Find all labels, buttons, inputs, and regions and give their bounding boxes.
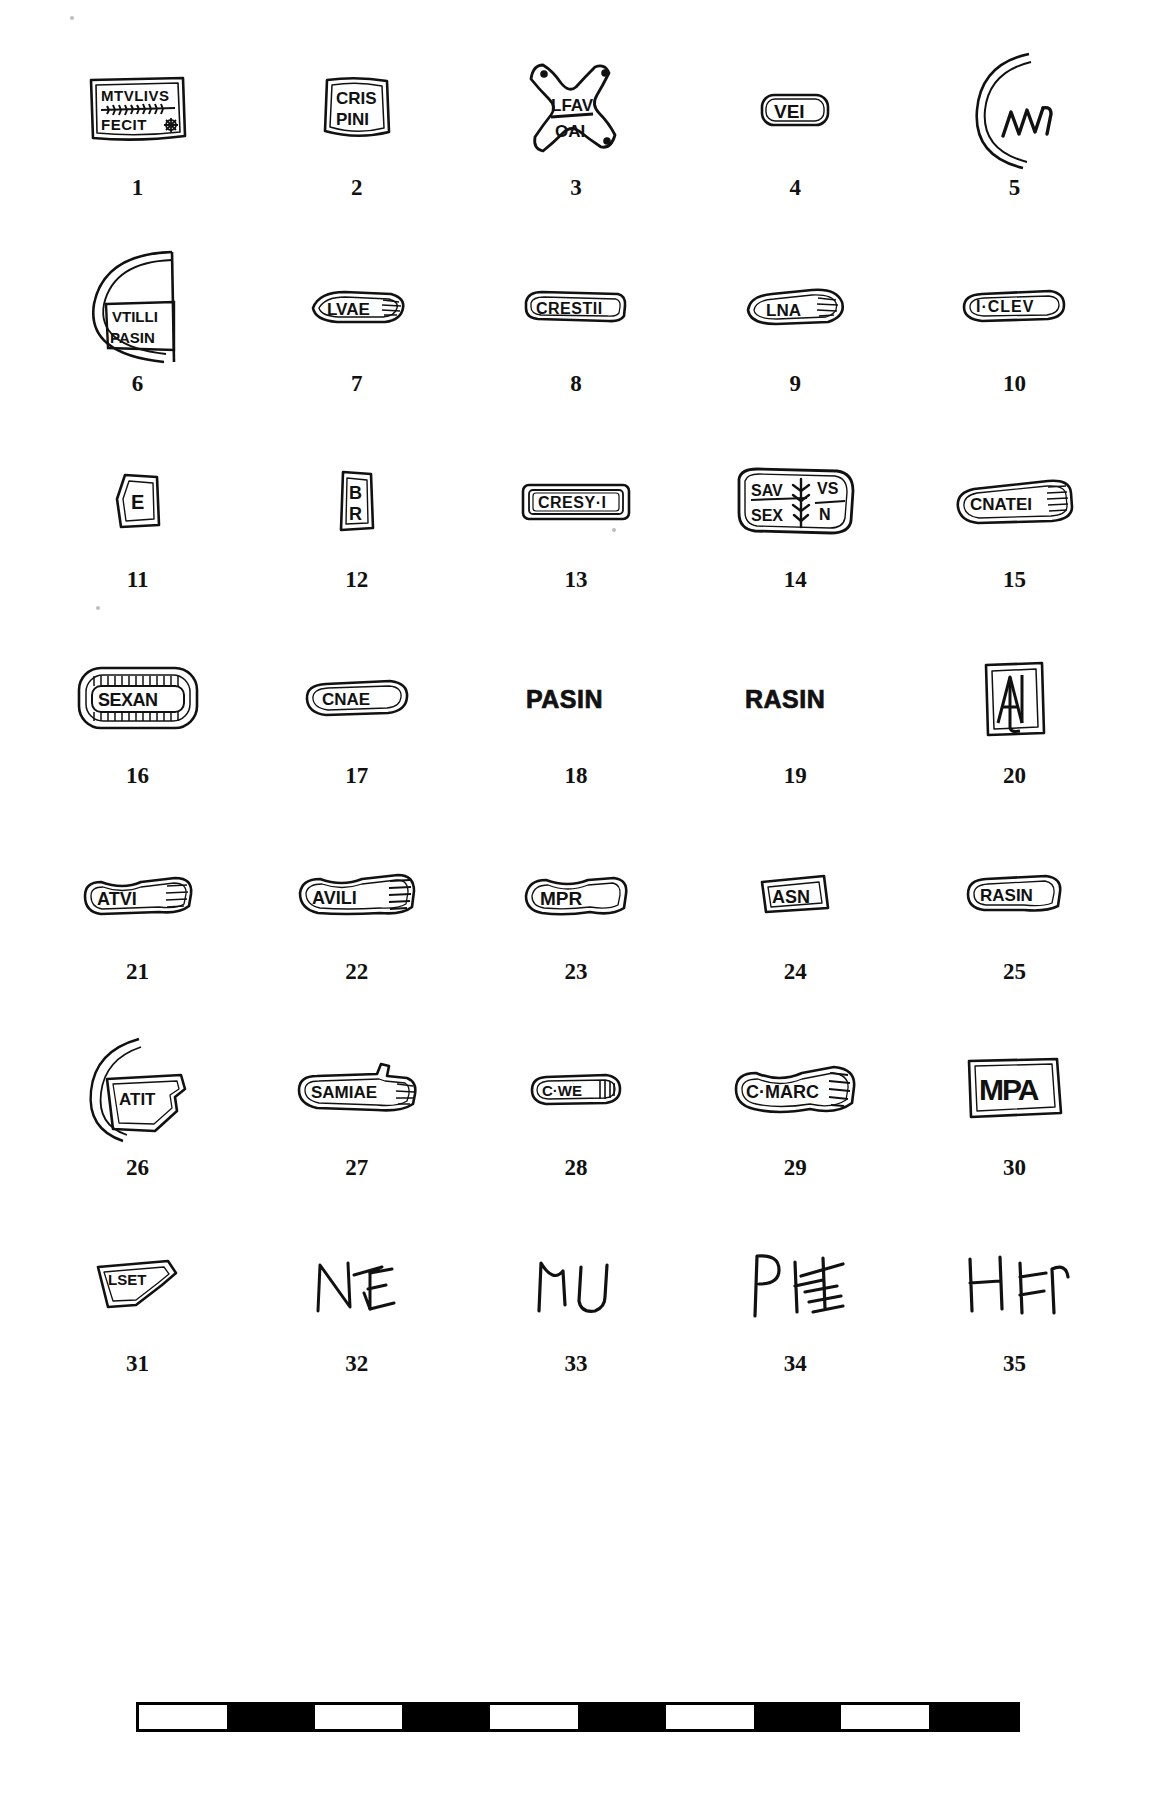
stamp-cell-16[interactable]: SEXAN 16 <box>28 634 247 830</box>
svg-text:SEX: SEX <box>751 507 783 524</box>
stamp-drawing-26: ATIT <box>28 1026 247 1154</box>
stamp-cell-8[interactable]: CRESTII 8 <box>466 242 685 438</box>
stamp-number: 8 <box>570 372 582 395</box>
stamp-cell-3[interactable]: LFAV OAI 3 <box>466 46 685 242</box>
scale-segment <box>754 1705 842 1729</box>
stamp-drawing-34 <box>686 1222 905 1350</box>
stamp-number: 12 <box>345 568 368 591</box>
stamp-drawing-6: VTILLI PASIN <box>28 242 247 370</box>
stamp-cell-19[interactable]: RASIN 19 <box>686 634 905 830</box>
stamp-plate: MTVLIVS FECIT 1 <box>0 0 1152 1795</box>
scale-segment <box>227 1705 315 1729</box>
stamp-cell-17[interactable]: CNAE 17 <box>247 634 466 830</box>
stamp-cell-29[interactable]: C·MARC 29 <box>686 1026 905 1222</box>
svg-text:C·MARC: C·MARC <box>746 1082 819 1102</box>
svg-text:FECIT: FECIT <box>101 116 147 133</box>
svg-text:MPA: MPA <box>979 1073 1039 1106</box>
stamp-cell-5[interactable]: 5 <box>905 46 1124 242</box>
svg-text:PINI: PINI <box>336 110 369 129</box>
svg-text:OAI: OAI <box>555 122 585 141</box>
stamp-number: 16 <box>126 764 149 787</box>
svg-text:ATVI: ATVI <box>97 889 137 909</box>
stamp-cell-4[interactable]: VEI 4 <box>686 46 905 242</box>
scale-segment <box>490 1705 578 1729</box>
stamp-cell-26[interactable]: ATIT 26 <box>28 1026 247 1222</box>
svg-text:CRESTII: CRESTII <box>536 300 603 317</box>
stamp-drawing-25: RASIN <box>905 830 1124 958</box>
stamp-cell-21[interactable]: ATVI 21 <box>28 830 247 1026</box>
stamp-number: 17 <box>345 764 368 787</box>
svg-text:C·WE: C·WE <box>542 1082 582 1099</box>
stamp-cell-12[interactable]: B R 12 <box>247 438 466 634</box>
stamp-drawing-5 <box>905 46 1124 174</box>
stamp-drawing-35 <box>905 1222 1124 1350</box>
stamp-drawing-23: MPR <box>466 830 685 958</box>
scale-segment <box>315 1705 403 1729</box>
stamp-number: 27 <box>345 1156 368 1179</box>
stamp-cell-33[interactable]: 33 <box>466 1222 685 1418</box>
scale-segment <box>402 1705 490 1729</box>
svg-text:SEXAN: SEXAN <box>98 690 158 710</box>
stamp-cell-18[interactable]: PASIN 18 <box>466 634 685 830</box>
stamp-drawing-13: CRESY·I <box>466 438 685 566</box>
stamp-drawing-31: LSET <box>28 1222 247 1350</box>
stamp-cell-32[interactable]: 32 <box>247 1222 466 1418</box>
stamp-cell-24[interactable]: ASN 24 <box>686 830 905 1026</box>
stamp-drawing-33 <box>466 1222 685 1350</box>
stamp-cell-31[interactable]: LSET 31 <box>28 1222 247 1418</box>
stamp-cell-22[interactable]: AVILI 22 <box>247 830 466 1026</box>
stamp-cell-7[interactable]: LVAE 7 <box>247 242 466 438</box>
stamp-number: 31 <box>126 1352 149 1375</box>
stamp-cell-1[interactable]: MTVLIVS FECIT 1 <box>28 46 247 242</box>
stamp-cell-2[interactable]: CRIS PINI 2 <box>247 46 466 242</box>
stamp-drawing-10: I·CLEV <box>905 242 1124 370</box>
stamp-cell-13[interactable]: CRESY·I 13 <box>466 438 685 634</box>
stamp-number: 28 <box>564 1156 587 1179</box>
stamp-cell-15[interactable]: CNATEI 15 <box>905 438 1124 634</box>
svg-text:R: R <box>349 504 362 524</box>
stamp-cell-14[interactable]: SAV VS SEX N 14 <box>686 438 905 634</box>
scale-segment <box>139 1705 227 1729</box>
scale-segment <box>666 1705 754 1729</box>
stamp-cell-9[interactable]: LNA 9 <box>686 242 905 438</box>
svg-text:MTVLIVS: MTVLIVS <box>101 87 170 104</box>
svg-text:MPR: MPR <box>540 888 583 909</box>
stamp-drawing-2: CRIS PINI <box>247 46 466 174</box>
stamp-number: 13 <box>564 568 587 591</box>
stamp-drawing-21: ATVI <box>28 830 247 958</box>
scale-segment <box>929 1705 1017 1729</box>
stamp-cell-25[interactable]: RASIN 25 <box>905 830 1124 1026</box>
stamp-number: 20 <box>1003 764 1026 787</box>
svg-text:VTILLI: VTILLI <box>112 308 158 325</box>
stamp-cell-10[interactable]: I·CLEV 10 <box>905 242 1124 438</box>
stamp-number: 34 <box>784 1352 807 1375</box>
stamp-cell-6[interactable]: VTILLI PASIN 6 <box>28 242 247 438</box>
scale-bar <box>136 1702 1020 1732</box>
svg-text:N: N <box>819 506 831 523</box>
svg-text:VS: VS <box>817 480 839 497</box>
stamp-cell-28[interactable]: C·WE 28 <box>466 1026 685 1222</box>
stamp-drawing-9: LNA <box>686 242 905 370</box>
stamp-number: 4 <box>789 176 801 199</box>
svg-text:CRESY·I: CRESY·I <box>538 494 606 511</box>
stamp-drawing-7: LVAE <box>247 242 466 370</box>
stamp-cell-35[interactable]: 35 <box>905 1222 1124 1418</box>
stamp-number: 19 <box>784 764 807 787</box>
stamp-cell-23[interactable]: MPR 23 <box>466 830 685 1026</box>
stamp-number: 25 <box>1003 960 1026 983</box>
stamp-number: 29 <box>784 1156 807 1179</box>
stamp-number: 15 <box>1003 568 1026 591</box>
svg-text:CNAE: CNAE <box>322 690 370 709</box>
stamp-cell-11[interactable]: E 11 <box>28 438 247 634</box>
stamp-cell-30[interactable]: MPA 30 <box>905 1026 1124 1222</box>
svg-text:LSET: LSET <box>108 1271 146 1288</box>
stamp-cell-27[interactable]: SAMIAE 27 <box>247 1026 466 1222</box>
stamp-drawing-22: AVILI <box>247 830 466 958</box>
stamp-number: 23 <box>564 960 587 983</box>
svg-text:I·CLEV: I·CLEV <box>976 298 1034 315</box>
svg-text:AVILI: AVILI <box>312 888 357 908</box>
stamp-cell-34[interactable]: 34 <box>686 1222 905 1418</box>
stamp-cell-20[interactable]: 20 <box>905 634 1124 830</box>
stamp-number: 22 <box>345 960 368 983</box>
stamp-drawing-3: LFAV OAI <box>466 46 685 174</box>
